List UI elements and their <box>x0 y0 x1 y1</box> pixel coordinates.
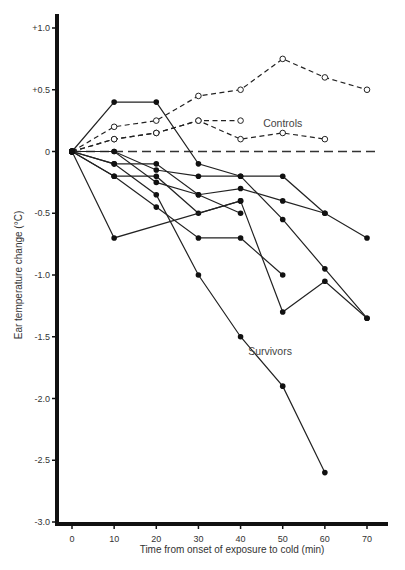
x-tick-label: 30 <box>193 534 203 544</box>
filled-circle-marker <box>238 186 244 192</box>
filled-circle-marker <box>280 198 286 204</box>
open-circle-marker <box>322 75 328 81</box>
series-line <box>72 152 325 473</box>
filled-circle-marker <box>280 217 286 223</box>
x-tick-label: 70 <box>362 534 372 544</box>
series-survivor-2 <box>69 149 328 217</box>
x-tick-label: 10 <box>109 534 119 544</box>
open-circle-marker <box>238 118 244 124</box>
open-circle-marker <box>196 118 202 124</box>
filled-circle-marker <box>280 272 286 278</box>
filled-circle-marker <box>111 99 117 105</box>
open-circle-marker <box>238 136 244 142</box>
y-tick-label: 0 <box>45 147 50 157</box>
axes <box>52 14 388 529</box>
filled-circle-marker <box>153 180 159 186</box>
filled-circle-marker <box>280 309 286 315</box>
filled-circle-marker <box>153 167 159 173</box>
filled-circle-marker <box>111 161 117 167</box>
filled-circle-marker <box>153 99 159 105</box>
open-circle-marker <box>153 130 159 136</box>
annotation-controls: Controls <box>263 117 302 129</box>
series-line <box>72 152 325 214</box>
filled-circle-marker <box>238 173 244 179</box>
filled-circle-marker <box>280 173 286 179</box>
filled-circle-marker <box>111 149 117 155</box>
filled-circle-marker <box>196 161 202 167</box>
y-tick-label: -2.5 <box>34 455 50 465</box>
filled-circle-marker <box>111 173 117 179</box>
x-tick-label: 50 <box>278 534 288 544</box>
filled-circle-marker <box>322 278 328 284</box>
filled-circle-marker <box>196 235 202 241</box>
x-tick-label: 40 <box>236 534 246 544</box>
origin-marker <box>69 149 75 155</box>
filled-circle-marker <box>111 235 117 241</box>
open-circle-marker <box>153 118 159 124</box>
filled-circle-marker <box>238 235 244 241</box>
filled-circle-marker <box>196 173 202 179</box>
series-group <box>69 56 370 475</box>
open-circle-marker <box>280 130 286 136</box>
filled-circle-marker <box>153 161 159 167</box>
series-survivor-1 <box>69 99 370 321</box>
y-tick-label: -3.0 <box>34 517 50 527</box>
open-circle-marker <box>238 87 244 93</box>
x-tick-label: 20 <box>151 534 161 544</box>
open-circle-marker <box>322 136 328 142</box>
filled-circle-marker <box>238 334 244 340</box>
open-circle-marker <box>280 56 286 62</box>
filled-circle-marker <box>322 470 328 476</box>
x-axis-title: Time from onset of exposure to cold (min… <box>140 544 325 555</box>
open-circle-marker <box>196 93 202 99</box>
filled-circle-marker <box>238 210 244 216</box>
y-tick-label: -0.5 <box>34 208 50 218</box>
chart: +1.0+0.50-0.5-1.0-1.5-2.0-2.5-3.00102030… <box>0 0 405 570</box>
filled-circle-marker <box>322 210 328 216</box>
y-axis-title: Ear temperature change (°C) <box>13 211 24 340</box>
y-tick-label: +0.5 <box>32 85 50 95</box>
filled-circle-marker <box>153 204 159 210</box>
y-tick-label: -1.5 <box>34 332 50 342</box>
series-line <box>72 152 283 276</box>
series-line <box>72 102 367 318</box>
x-tick-label: 0 <box>69 534 74 544</box>
filled-circle-marker <box>322 266 328 272</box>
filled-circle-marker <box>196 272 202 278</box>
open-circle-marker <box>111 124 117 130</box>
filled-circle-marker <box>153 192 159 198</box>
x-tick-label: 60 <box>320 534 330 544</box>
filled-circle-marker <box>153 173 159 179</box>
y-tick-label: -1.0 <box>34 270 50 280</box>
open-circle-marker <box>111 136 117 142</box>
labels: +1.0+0.50-0.5-1.0-1.5-2.0-2.5-3.00102030… <box>13 23 372 555</box>
filled-circle-marker <box>364 235 370 241</box>
filled-circle-marker <box>196 192 202 198</box>
annotation-survivors: Survivors <box>248 345 292 357</box>
open-circle-marker <box>364 87 370 93</box>
y-tick-label: -2.0 <box>34 394 50 404</box>
filled-circle-marker <box>280 383 286 389</box>
filled-circle-marker <box>238 198 244 204</box>
y-tick-label: +1.0 <box>32 23 50 33</box>
series-survivor-5 <box>69 149 328 476</box>
filled-circle-marker <box>364 315 370 321</box>
